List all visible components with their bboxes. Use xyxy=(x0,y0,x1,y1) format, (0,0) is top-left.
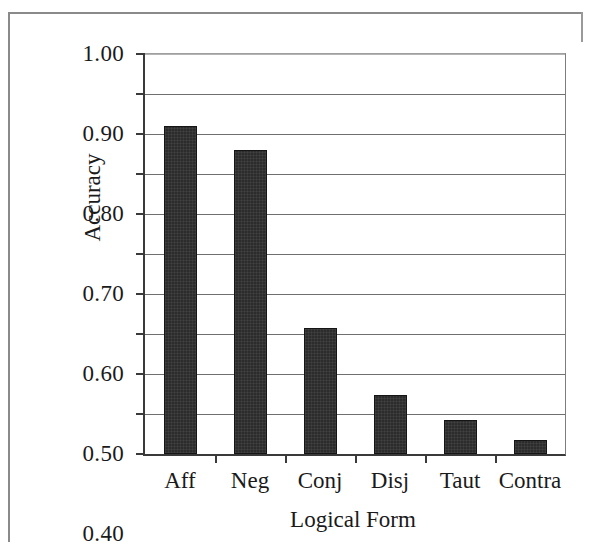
y-axis-title: Accuracy xyxy=(81,128,104,268)
x-axis-tick xyxy=(425,454,427,463)
x-axis-tick xyxy=(355,454,357,463)
y-axis-tick: 0.50 xyxy=(136,253,145,255)
x-axis-tick xyxy=(215,454,217,463)
y-axis-tick-label: 0.90 xyxy=(83,122,124,145)
y-axis-tick-label: 0.40 xyxy=(83,522,124,545)
gridline xyxy=(145,134,565,135)
bar-aff xyxy=(164,126,197,454)
y-axis-tick: 0.20 xyxy=(136,373,145,375)
y-axis-tick: 0.90 xyxy=(136,93,145,95)
gridline xyxy=(145,214,565,215)
bar-neg xyxy=(234,150,267,454)
y-axis-tick-label: 0.60 xyxy=(83,362,124,385)
x-axis-tick xyxy=(285,454,287,463)
bar-disj xyxy=(374,395,407,454)
y-axis-tick: 0.40 xyxy=(136,293,145,295)
y-axis-tick: 0.70 xyxy=(136,173,145,175)
x-axis-title: Logical Form xyxy=(143,508,563,531)
bar-conj xyxy=(304,328,337,454)
y-axis-tick: 0.60 xyxy=(136,213,145,215)
y-axis-tick: 0.30 xyxy=(136,333,145,335)
bar-contra xyxy=(514,440,547,454)
x-axis-label-conj: Conj xyxy=(298,469,343,492)
x-axis-label-taut: Taut xyxy=(440,469,481,492)
y-axis-tick: 0.00 xyxy=(136,453,145,455)
y-axis-tick-label: 0.80 xyxy=(83,202,124,225)
scan-border-right-segment xyxy=(581,12,583,42)
figure-container: Accuracy 1.000.900.800.700.600.500.400.3… xyxy=(0,0,590,559)
bar-taut xyxy=(444,420,477,454)
x-axis-label-contra: Contra xyxy=(499,469,562,492)
y-axis-tick: 0.80 xyxy=(136,133,145,135)
gridline xyxy=(145,334,565,335)
x-axis-label-aff: Aff xyxy=(164,469,196,492)
gridline xyxy=(145,94,565,95)
gridline xyxy=(145,374,565,375)
x-axis-label-neg: Neg xyxy=(231,469,269,492)
gridline xyxy=(145,294,565,295)
y-axis-tick: 1.00 xyxy=(136,53,145,55)
y-axis-tick-label: 0.50 xyxy=(83,442,124,465)
y-axis-tick-label: 1.00 xyxy=(83,42,124,65)
gridline xyxy=(145,254,565,255)
y-axis-tick-label: 0.70 xyxy=(83,282,124,305)
x-axis-label-disj: Disj xyxy=(371,469,409,492)
plot-area: 1.000.900.800.700.600.500.400.300.200.10… xyxy=(143,53,566,456)
gridline xyxy=(145,174,565,175)
x-axis-tick xyxy=(495,454,497,463)
gridline xyxy=(145,54,565,55)
y-axis-tick: 0.10 xyxy=(136,413,145,415)
gridline xyxy=(145,414,565,415)
